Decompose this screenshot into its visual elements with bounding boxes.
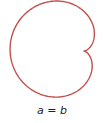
caption-equals: = (47, 104, 56, 117)
caption-equation: a = b (0, 104, 104, 118)
caption-var-a: a (37, 104, 44, 117)
cardioid-curve (10, 1, 94, 97)
cardioid-plot (0, 0, 104, 105)
caption-var-b: b (60, 104, 67, 117)
